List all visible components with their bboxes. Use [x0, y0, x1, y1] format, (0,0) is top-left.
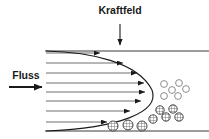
diagram-canvas: Kraftfeld Fluss	[0, 0, 209, 139]
hatched-particle	[162, 113, 170, 121]
open-particle	[161, 81, 168, 88]
open-particle	[175, 93, 182, 100]
flow-diagram-figure: Kraftfeld Fluss	[0, 0, 209, 139]
hatched-particle	[137, 121, 147, 131]
force-field-label: Kraftfeld	[98, 4, 141, 16]
flow-label: Fluss	[12, 69, 40, 81]
open-particle	[183, 86, 190, 93]
hatched-particle	[169, 105, 177, 113]
hatched-particle	[149, 115, 157, 123]
hatched-particle	[156, 106, 164, 114]
hatched-particle	[123, 120, 133, 130]
hatched-particle-cluster-bottom	[108, 120, 147, 131]
hatched-particle	[175, 113, 183, 121]
open-particle	[161, 93, 168, 100]
open-particle	[176, 80, 183, 87]
hatched-particle	[108, 121, 118, 131]
open-particle	[169, 87, 176, 94]
